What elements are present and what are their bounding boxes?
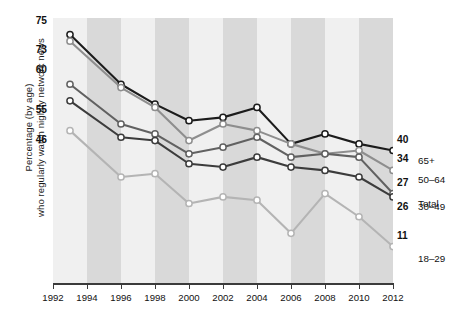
y-axis-label-line1: Percentage (by age): [23, 8, 35, 248]
data-point-marker: [356, 154, 362, 160]
end-value-label-18-29: 11: [397, 230, 408, 241]
x-axis-tick-label: 2002: [212, 292, 233, 303]
data-point-marker: [118, 84, 124, 90]
data-point-marker: [390, 147, 393, 153]
data-point-marker: [254, 197, 260, 203]
data-point-marker: [322, 190, 328, 196]
data-point-marker: [186, 200, 192, 206]
x-axis-tick: [87, 283, 88, 289]
start-value-label-18-29: 46: [36, 134, 47, 145]
data-point-marker: [322, 151, 328, 157]
x-axis-tick: [325, 283, 326, 289]
data-point-marker: [186, 161, 192, 167]
data-point-marker: [390, 243, 393, 249]
data-point-marker: [356, 141, 362, 147]
start-value-label-30-49: 55: [36, 104, 47, 115]
x-axis-tick-label: 2004: [246, 292, 267, 303]
data-point-marker: [220, 164, 226, 170]
end-value-label-65-: 40: [397, 134, 408, 145]
start-value-label-total: 60: [36, 64, 47, 75]
data-point-marker: [288, 141, 294, 147]
series-label-30-49: 30–49: [418, 201, 445, 212]
series-line: [70, 41, 393, 170]
start-value-label-65-: 75: [36, 15, 47, 26]
x-axis-tick: [223, 283, 224, 289]
data-point-marker: [356, 174, 362, 180]
data-point-marker: [67, 128, 73, 134]
series-lines-svg: [53, 18, 393, 283]
data-point-marker: [288, 154, 294, 160]
data-point-marker: [220, 114, 226, 120]
x-axis-tick-label: 1998: [144, 292, 165, 303]
x-axis-tick-label: 2012: [382, 292, 403, 303]
data-point-marker: [322, 131, 328, 137]
x-axis-tick-label: 1992: [42, 292, 63, 303]
data-point-marker: [254, 104, 260, 110]
data-point-marker: [186, 137, 192, 143]
x-axis-tick-label: 1994: [76, 292, 97, 303]
data-point-marker: [67, 38, 73, 44]
data-point-marker: [254, 128, 260, 134]
series-50-64: [67, 38, 393, 173]
x-axis-tick-label: 2006: [280, 292, 301, 303]
data-point-marker: [220, 121, 226, 127]
data-point-marker: [152, 131, 158, 137]
data-point-marker: [152, 137, 158, 143]
x-axis-tick: [121, 283, 122, 289]
data-point-marker: [67, 98, 73, 104]
data-point-marker: [254, 134, 260, 140]
data-point-marker: [356, 214, 362, 220]
data-point-marker: [118, 174, 124, 180]
end-value-label-total: 27: [397, 177, 408, 188]
series-label-65-: 65+: [418, 155, 435, 166]
start-value-label-50-64: 73: [36, 44, 47, 55]
x-axis-tick: [257, 283, 258, 289]
data-point-marker: [186, 151, 192, 157]
end-value-label-50-64: 34: [397, 153, 408, 164]
data-point-marker: [152, 171, 158, 177]
x-axis-tick: [155, 283, 156, 289]
series-65-: [67, 31, 393, 153]
data-point-marker: [186, 118, 192, 124]
x-axis-tick: [393, 283, 394, 289]
data-point-marker: [220, 144, 226, 150]
data-point-marker: [118, 121, 124, 127]
data-point-marker: [390, 167, 393, 173]
data-point-marker: [390, 194, 393, 200]
series-line: [70, 131, 393, 247]
series-30-49: [67, 98, 393, 200]
x-axis-tick-label: 1996: [110, 292, 131, 303]
data-point-marker: [220, 194, 226, 200]
data-point-marker: [288, 164, 294, 170]
data-point-marker: [322, 167, 328, 173]
plot-area: [53, 18, 393, 283]
x-axis-tick-label: 2000: [178, 292, 199, 303]
x-axis-tick: [359, 283, 360, 289]
series-line: [70, 35, 393, 151]
x-axis-tick: [53, 283, 54, 289]
chart-figure: Percentage (by age) who regularly watch …: [0, 0, 451, 320]
data-point-marker: [254, 154, 260, 160]
end-value-label-30-49: 26: [397, 201, 408, 212]
x-axis-tick-label: 2010: [348, 292, 369, 303]
data-point-marker: [152, 104, 158, 110]
x-axis-tick: [291, 283, 292, 289]
series-label-18-29: 18–29: [418, 253, 445, 264]
data-point-marker: [356, 147, 362, 153]
data-point-marker: [67, 81, 73, 87]
data-point-marker: [118, 134, 124, 140]
data-point-marker: [67, 31, 73, 37]
x-axis-tick-label: 2008: [314, 292, 335, 303]
x-axis-tick: [189, 283, 190, 289]
data-point-marker: [288, 230, 294, 236]
series-label-50-64: 50–64: [418, 174, 445, 185]
